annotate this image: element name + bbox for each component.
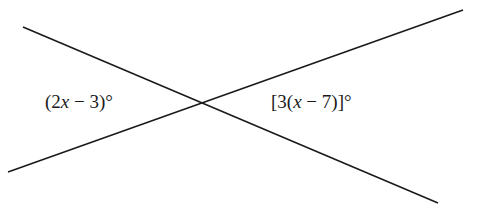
left-angle-label: (2x − 3)°	[45, 91, 113, 113]
vertical-angles-diagram: (2x − 3)° [3(x − 7)]°	[0, 0, 479, 208]
right-angle-label: [3(x − 7)]°	[271, 91, 352, 113]
line-descending	[23, 27, 438, 203]
